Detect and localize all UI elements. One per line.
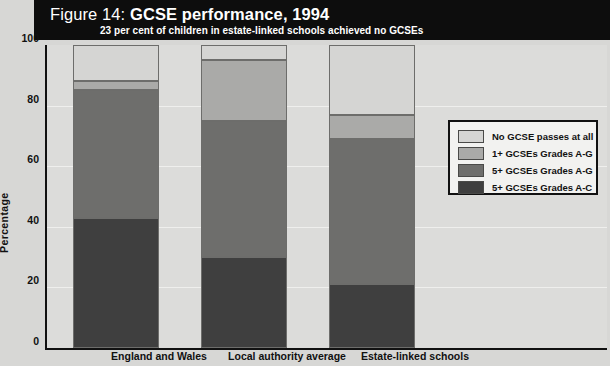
segment-5plus-a-c bbox=[201, 257, 287, 348]
segment-5plus-a-c bbox=[73, 218, 159, 348]
figure-title: GCSE performance, 1994 bbox=[130, 5, 329, 23]
legend-item-1plus-a-g[interactable]: 1+ GCSEs Grades A-G bbox=[458, 145, 596, 161]
segment-5plus-a-g bbox=[201, 121, 287, 257]
figure-subtitle: 23 per cent of children in estate-linked… bbox=[100, 25, 423, 36]
figure-number: Figure 14: bbox=[50, 5, 130, 23]
legend-label: 5+ GCSEs Grades A-G bbox=[492, 165, 593, 176]
plot-area: No GCSE passes at all 1+ GCSEs Grades A-… bbox=[45, 45, 607, 350]
legend-item-5plus-a-c[interactable]: 5+ GCSEs Grades A-C bbox=[458, 179, 596, 195]
legend-swatch-icon bbox=[458, 181, 484, 194]
y-tick-label-20: 20 bbox=[27, 274, 39, 286]
segment-1plus-a-g bbox=[73, 81, 159, 90]
segment-5plus-a-g bbox=[73, 90, 159, 217]
legend-label: 1+ GCSEs Grades A-G bbox=[492, 148, 593, 159]
figure-container: Figure 14: GCSE performance, 1994 23 per… bbox=[0, 0, 610, 366]
x-tick-label-estate-linked-schools: Estate-linked schools bbox=[361, 350, 469, 362]
legend-swatch-icon bbox=[458, 147, 484, 160]
figure-title-banner: Figure 14: GCSE performance, 1994 23 per… bbox=[34, 0, 610, 40]
y-axis: Percentage 0 20 40 60 80 100 bbox=[0, 38, 45, 358]
y-tick-label-40: 40 bbox=[27, 214, 39, 226]
legend-item-no-gcse[interactable]: No GCSE passes at all bbox=[458, 128, 596, 144]
y-tick-label-80: 80 bbox=[27, 93, 39, 105]
y-tick-label-60: 60 bbox=[27, 153, 39, 165]
y-tick-label-100: 100 bbox=[21, 32, 39, 44]
segment-no-gcse bbox=[201, 45, 287, 60]
segment-1plus-a-g bbox=[201, 60, 287, 121]
y-axis-title: Percentage bbox=[0, 192, 10, 253]
legend-swatch-icon bbox=[458, 130, 484, 143]
x-tick-label-england-and-wales: England and Wales bbox=[111, 350, 207, 362]
legend: No GCSE passes at all 1+ GCSEs Grades A-… bbox=[448, 120, 598, 195]
figure-title-line: Figure 14: GCSE performance, 1994 bbox=[50, 5, 329, 24]
y-tick-label-0: 0 bbox=[33, 335, 39, 347]
legend-label: No GCSE passes at all bbox=[492, 131, 593, 142]
segment-1plus-a-g bbox=[329, 115, 415, 139]
legend-label: 5+ GCSEs Grades A-C bbox=[492, 182, 592, 193]
segment-5plus-a-g bbox=[329, 139, 415, 285]
x-tick-label-local-authority-average: Local authority average bbox=[228, 350, 346, 362]
legend-swatch-icon bbox=[458, 164, 484, 177]
x-axis-labels: England and Wales Local authority averag… bbox=[45, 350, 610, 366]
segment-no-gcse bbox=[329, 45, 415, 115]
segment-no-gcse bbox=[73, 45, 159, 81]
segment-5plus-a-c bbox=[329, 284, 415, 348]
legend-item-5plus-a-g[interactable]: 5+ GCSEs Grades A-G bbox=[458, 162, 596, 178]
